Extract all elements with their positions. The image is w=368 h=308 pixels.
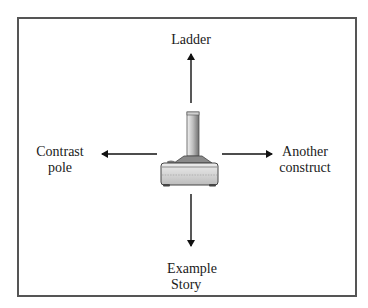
label-contrast-line2: pole [24,160,96,176]
label-example-line2: Story [162,277,222,293]
label-ladder: Ladder [161,32,221,48]
joystick-icon [161,112,218,187]
label-contrast-line1: Contrast [24,144,96,160]
label-example-line1: Example [162,261,222,277]
label-ladder-text: Ladder [171,32,211,47]
label-another-construct: Another construct [272,144,338,176]
label-another-line1: Another [272,144,338,160]
label-contrast-pole: Contrast pole [24,144,96,176]
label-another-line2: construct [272,160,338,176]
label-example-story: Example Story [162,261,222,293]
